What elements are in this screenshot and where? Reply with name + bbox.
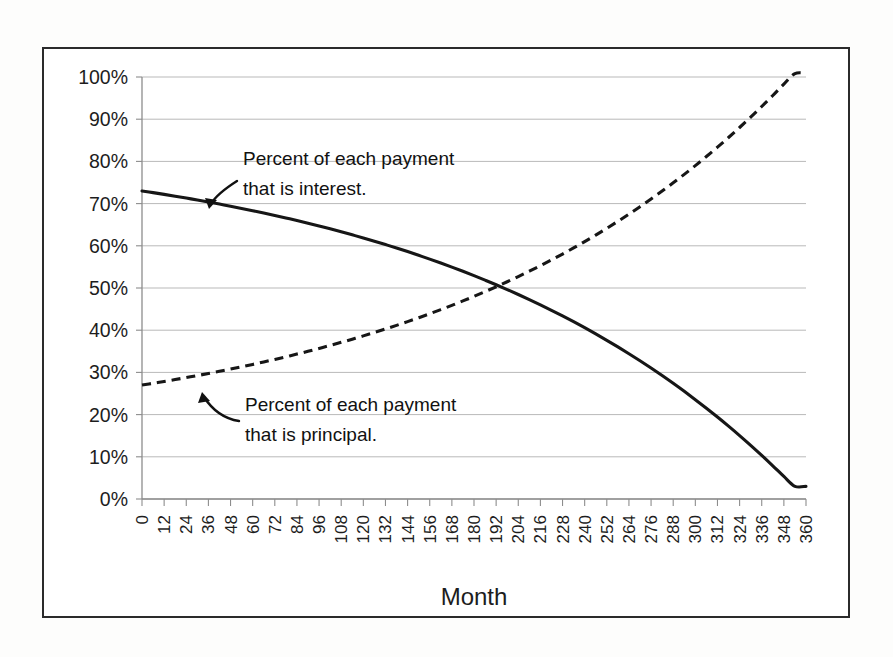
x-axis-title: Month xyxy=(441,583,508,610)
interest-annotation-line2: that is interest. xyxy=(243,178,367,199)
x-tick-label-348: 348 xyxy=(775,515,794,543)
y-tick-label-70%: 70% xyxy=(89,193,128,215)
x-tick-label-216: 216 xyxy=(531,515,550,543)
x-tick-label-96: 96 xyxy=(310,515,329,534)
y-tick-label-30%: 30% xyxy=(89,361,128,383)
x-tick-label-156: 156 xyxy=(421,515,440,543)
x-tick-label-312: 312 xyxy=(708,515,727,543)
x-tick-label-144: 144 xyxy=(399,515,418,543)
x-tick-label-240: 240 xyxy=(576,515,595,543)
x-tick-label-300: 300 xyxy=(686,515,705,543)
x-tick-label-228: 228 xyxy=(554,515,573,543)
x-tick-label-108: 108 xyxy=(332,515,351,543)
y-axis-ticks: 0%10%20%30%40%50%60%70%80%90%100% xyxy=(78,66,142,510)
x-tick-label-192: 192 xyxy=(487,515,506,543)
x-tick-label-132: 132 xyxy=(376,515,395,543)
x-tick-label-0: 0 xyxy=(133,515,152,524)
x-tick-label-168: 168 xyxy=(443,515,462,543)
x-tick-label-72: 72 xyxy=(266,515,285,534)
page-background: 0%10%20%30%40%50%60%70%80%90%100% 012243… xyxy=(0,0,893,657)
interest-annotation-line1: Percent of each payment xyxy=(243,148,455,169)
y-tick-label-20%: 20% xyxy=(89,404,128,426)
x-tick-label-360: 360 xyxy=(797,515,816,543)
amortization-line-chart: 0%10%20%30%40%50%60%70%80%90%100% 012243… xyxy=(44,49,848,616)
x-tick-label-120: 120 xyxy=(354,515,373,543)
x-tick-label-24: 24 xyxy=(177,515,196,534)
x-tick-label-48: 48 xyxy=(222,515,241,534)
x-tick-label-36: 36 xyxy=(199,515,218,534)
interest-annotation: Percent of each payment that is interest… xyxy=(205,148,455,209)
principal-annotation-line2: that is principal. xyxy=(245,424,377,445)
x-tick-label-180: 180 xyxy=(465,515,484,543)
x-tick-label-264: 264 xyxy=(620,515,639,543)
chart-frame: 0%10%20%30%40%50%60%70%80%90%100% 012243… xyxy=(42,47,850,618)
x-tick-label-336: 336 xyxy=(753,515,772,543)
gridlines xyxy=(142,77,806,499)
x-tick-label-252: 252 xyxy=(598,515,617,543)
x-tick-label-60: 60 xyxy=(244,515,263,534)
y-tick-label-60%: 60% xyxy=(89,235,128,257)
y-tick-label-80%: 80% xyxy=(89,150,128,172)
x-tick-label-84: 84 xyxy=(288,515,307,534)
x-tick-label-12: 12 xyxy=(155,515,174,534)
y-tick-label-10%: 10% xyxy=(89,446,128,468)
x-axis-ticks: 0122436486072849610812013214415616818019… xyxy=(133,499,816,543)
y-tick-label-40%: 40% xyxy=(89,319,128,341)
series-line-interest xyxy=(142,191,806,487)
y-tick-label-50%: 50% xyxy=(89,277,128,299)
x-tick-label-204: 204 xyxy=(509,515,528,543)
y-tick-label-100%: 100% xyxy=(78,66,128,88)
x-tick-label-276: 276 xyxy=(642,515,661,543)
y-tick-label-0%: 0% xyxy=(100,488,128,510)
x-tick-label-324: 324 xyxy=(731,515,750,543)
x-tick-label-288: 288 xyxy=(664,515,683,543)
principal-annotation-line1: Percent of each payment xyxy=(245,394,457,415)
principal-annotation: Percent of each payment that is principa… xyxy=(198,392,457,445)
y-tick-label-90%: 90% xyxy=(89,108,128,130)
